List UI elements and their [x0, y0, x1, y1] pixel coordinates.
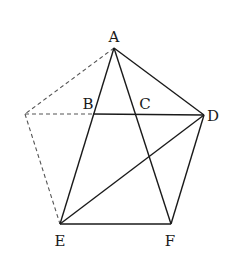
- segment-ad: [114, 48, 204, 115]
- segment-ed: [60, 115, 204, 224]
- label-a: A: [108, 28, 120, 46]
- segment-bd: [93, 114, 204, 115]
- label-e: E: [55, 232, 66, 250]
- segment-fd: [171, 115, 204, 224]
- pentagon-diagram: A B C D E F: [0, 0, 236, 258]
- label-d: D: [207, 107, 219, 125]
- dashed-segment-ap: [25, 48, 114, 114]
- dashed-segment-pe: [25, 114, 60, 224]
- vertex-labels: A B C D E F: [55, 28, 220, 250]
- segment-ae: [60, 48, 114, 224]
- label-c: C: [139, 95, 150, 113]
- solid-lines: [60, 48, 204, 224]
- dashed-fold-lines: [25, 48, 114, 224]
- segment-af: [114, 48, 171, 224]
- label-b: B: [82, 95, 93, 113]
- label-f: F: [165, 232, 175, 250]
